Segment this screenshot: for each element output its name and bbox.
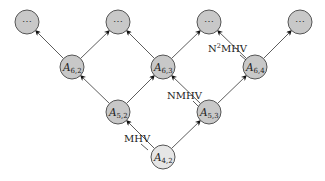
edge-a53-a64 <box>218 76 247 104</box>
ellipsis-label: ⋯ <box>204 16 214 27</box>
label-nmhv: NMHV <box>167 90 203 101</box>
edge-a42-a53 <box>172 121 201 149</box>
node-top1: ⋯ <box>15 10 39 34</box>
edge-a52-a63 <box>127 76 155 104</box>
node-a42-root: A4,2 <box>151 145 175 169</box>
ellipsis-label: ⋯ <box>113 16 123 27</box>
node-top2: ⋯ <box>106 10 130 34</box>
label-mhv-leader <box>141 144 148 150</box>
node-a52: A5,2 <box>106 100 130 124</box>
ellipsis-label: ⋯ <box>22 16 32 27</box>
label-nmhv-leader <box>193 101 198 106</box>
edge-a52-a62 <box>81 76 110 104</box>
ellipsis-label: ⋯ <box>295 16 305 27</box>
edge-a63-top3 <box>172 31 201 59</box>
edge-a64-top4 <box>264 31 292 59</box>
edge-a63-top2 <box>127 31 155 59</box>
edge-a62-top2 <box>81 31 110 59</box>
edge-a62-top1 <box>36 31 64 59</box>
node-top3: ⋯ <box>197 10 221 34</box>
amplitude-diagram: ⋯ ⋯ ⋯ ⋯ A6,2 A6,3 A6,4 A5,2 A5,3 A4,2 MH… <box>0 0 325 181</box>
node-a53: A5,3 <box>197 100 221 124</box>
node-a64: A6,4 <box>243 55 267 79</box>
edges <box>36 31 292 149</box>
label-n2mhv: N2MHV <box>208 42 248 54</box>
node-a62: A6,2 <box>60 55 84 79</box>
node-a63: A6,3 <box>151 55 175 79</box>
label-mhv: MHV <box>124 133 151 144</box>
node-top4: ⋯ <box>288 10 312 34</box>
